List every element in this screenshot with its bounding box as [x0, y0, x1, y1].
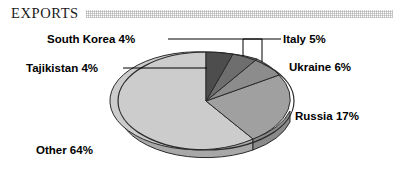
pie-label-russia: Russia 17% — [295, 110, 359, 123]
pie-label-italy: Italy 5% — [283, 33, 326, 46]
pie-label-south-korea: South Korea 4% — [47, 33, 135, 46]
pie-chart-svg — [0, 0, 402, 188]
pie-label-tajikistan: Tajikistan 4% — [26, 62, 98, 75]
pie-label-ukraine: Ukraine 6% — [289, 61, 351, 74]
exports-pie-chart-figure: EXPORTS — [0, 0, 402, 188]
pie-label-other: Other 64% — [36, 144, 93, 157]
pie-chart-area: South Korea 4% Italy 5% Ukraine 6% Russi… — [0, 0, 402, 188]
